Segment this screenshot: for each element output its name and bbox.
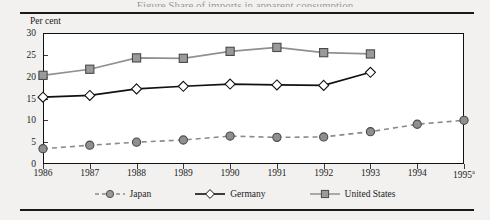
x-axis-tick-label: 1986 <box>34 168 53 178</box>
y-axis-tick-label: 5 <box>10 137 36 147</box>
y-axis-unit-label: Per cent <box>30 16 61 26</box>
x-axis-tick <box>43 164 44 169</box>
x-axis-tick-label: 1994 <box>408 168 427 178</box>
y-axis-tick <box>44 55 48 56</box>
x-axis-tick-label: 1990 <box>221 168 240 178</box>
legend-item-germany[interactable]: Germany <box>195 188 265 200</box>
x-axis-tick-label: 1992 <box>314 168 333 178</box>
x-axis-tick <box>417 164 418 169</box>
x-axis-tick-label: 1987 <box>80 168 99 178</box>
legend-label-united-states: United States <box>345 189 396 199</box>
x-axis-tick <box>230 164 231 169</box>
y-axis-tick <box>44 77 48 78</box>
figure-panel: Figure Share of imports in apparent cons… <box>0 0 490 220</box>
legend-key-germany <box>195 188 225 200</box>
legend-key-united-states <box>310 188 340 200</box>
legend-item-japan[interactable]: Japan <box>95 188 152 200</box>
x-axis-tick-label: 1995a <box>453 168 475 180</box>
y-axis-tick <box>44 99 48 100</box>
x-axis-tick <box>277 164 278 169</box>
y-axis-tick-label: 25 <box>10 50 36 60</box>
x-axis-tick <box>464 164 465 169</box>
figure-title-remnant: Figure Share of imports in apparent cons… <box>0 0 490 7</box>
x-axis-tick <box>324 164 325 169</box>
y-axis-tick <box>44 142 48 143</box>
legend-key-japan <box>95 188 125 200</box>
chart-legend: Japan Germany United States <box>0 188 490 200</box>
legend-label-japan: Japan <box>130 189 152 199</box>
x-axis-tick <box>183 164 184 169</box>
top-rule <box>20 12 474 14</box>
y-axis-tick <box>44 120 48 121</box>
x-axis-tick-label: 1991 <box>267 168 286 178</box>
x-axis-tick-label: 1989 <box>174 168 193 178</box>
y-axis-tick-label: 20 <box>10 72 36 82</box>
legend-item-united-states[interactable]: United States <box>310 188 396 200</box>
bottom-rule <box>20 209 474 211</box>
x-axis-tick-label: 1988 <box>127 168 146 178</box>
x-axis-tick <box>370 164 371 169</box>
x-axis-tick-label: 1993 <box>361 168 380 178</box>
x-axis-tick <box>137 164 138 169</box>
y-axis-tick-label: 15 <box>10 94 36 104</box>
legend-label-germany: Germany <box>230 189 265 199</box>
y-axis-tick-label: 10 <box>10 115 36 125</box>
y-axis-tick-label: 30 <box>10 28 36 38</box>
x-axis-tick <box>90 164 91 169</box>
plot-area <box>43 33 464 164</box>
y-axis-tick-label: 0 <box>10 159 36 169</box>
